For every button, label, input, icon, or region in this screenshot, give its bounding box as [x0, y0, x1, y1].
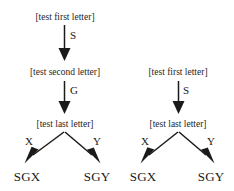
edge-label-left-s: S [70, 30, 76, 41]
node-right-test-first-letter: [test first letter] [148, 68, 207, 78]
leaf-right-sgx: SGX [130, 170, 157, 183]
edge-label-left-g: G [70, 85, 78, 96]
leaf-right-sgy: SGY [198, 170, 225, 183]
edge-label-right-s: S [183, 85, 189, 96]
leaf-left-sgy: SGY [84, 170, 111, 183]
decision-tree-diagram: [test first letter] S [test second lette… [0, 0, 234, 191]
edge-label-right-y: Y [207, 136, 215, 147]
edge-label-left-x: X [25, 136, 33, 147]
node-left-test-second-letter: [test second letter] [30, 68, 100, 78]
edge-label-right-x: X [141, 136, 149, 147]
node-left-test-last-letter: [test last letter] [37, 120, 94, 130]
node-right-test-last-letter: [test last letter] [150, 120, 207, 130]
diagram-edges-layer [0, 0, 234, 191]
edge-label-left-y: Y [93, 136, 101, 147]
leaf-left-sgx: SGX [14, 170, 41, 183]
node-left-test-first-letter: [test first letter] [35, 13, 94, 23]
edge-left-first-to-second [59, 25, 71, 61]
edge-left-second-to-last [59, 81, 71, 114]
